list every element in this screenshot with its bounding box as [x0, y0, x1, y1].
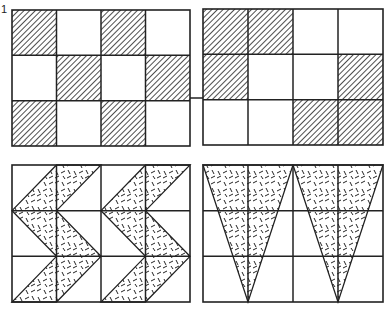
hatched-cell	[338, 100, 383, 145]
hatched-cell	[101, 101, 146, 146]
panel-top-left	[12, 10, 190, 146]
hatched-cell	[203, 54, 248, 99]
hatched-cell	[57, 55, 102, 100]
hatched-cell	[248, 9, 293, 54]
panel-top-right	[203, 9, 383, 145]
hatched-cell	[293, 100, 338, 145]
hatched-cell	[12, 10, 57, 55]
panel-bottom-left	[12, 165, 190, 302]
hatched-cell	[12, 101, 57, 146]
pattern-diagram	[0, 0, 392, 310]
hatched-cell	[101, 10, 146, 55]
panel-bottom-right	[203, 165, 383, 302]
hatched-cell	[338, 54, 383, 99]
hatched-cell	[203, 9, 248, 54]
hatched-cell	[146, 55, 191, 100]
